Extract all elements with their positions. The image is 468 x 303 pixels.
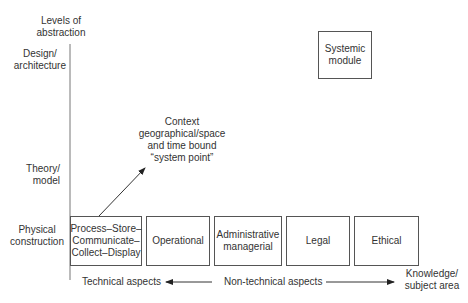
systemic-module-line2: module (325, 55, 366, 67)
context-arrow (99, 168, 145, 216)
level-design: Design/ architecture (14, 48, 66, 72)
systemic-module-line1: Systemic (325, 43, 366, 55)
systemic-module-box: Systemic module (318, 31, 372, 79)
box-process-line3: Collect–Display (70, 247, 141, 259)
level-theory-line2: model (26, 175, 60, 187)
box-administrative: Administrative managerial (214, 216, 282, 266)
context-line2: geographical/space (135, 128, 229, 140)
context-line3: and time bound (135, 140, 229, 152)
box-ethical: Ethical (354, 216, 419, 266)
box-operational-label: Operational (152, 235, 204, 247)
box-process-line1: Process–Store– (70, 223, 141, 235)
knowledge-label: Knowledge/ subject area (400, 268, 464, 292)
technical-aspects-label: Technical aspects (82, 276, 161, 288)
box-legal-label: Legal (306, 235, 330, 247)
box-process-store: Process–Store– Communicate– Collect–Disp… (70, 216, 142, 266)
knowledge-line2: subject area (400, 280, 464, 292)
level-theory: Theory/ model (26, 163, 60, 187)
level-physical-line2: construction (10, 236, 64, 248)
context-label: Context geographical/space and time boun… (135, 116, 229, 164)
y-axis-title-line1: Levels of (36, 15, 86, 27)
box-process-line2: Communicate– (70, 235, 141, 247)
box-legal: Legal (286, 216, 350, 266)
diagram-canvas: Levels of abstraction Design/ architectu… (0, 0, 468, 303)
y-axis-title: Levels of abstraction (36, 15, 86, 39)
level-physical-line1: Physical (10, 224, 64, 236)
level-design-line2: architecture (14, 60, 66, 72)
context-line1: Context (135, 116, 229, 128)
level-design-line1: Design/ (14, 48, 66, 60)
box-administrative-line1: Administrative (217, 229, 280, 241)
context-line4: “system point” (135, 152, 229, 164)
box-administrative-line2: managerial (217, 241, 280, 253)
non-technical-aspects-label: Non-technical aspects (224, 276, 322, 288)
knowledge-line1: Knowledge/ (400, 268, 464, 280)
box-ethical-label: Ethical (371, 235, 401, 247)
level-theory-line1: Theory/ (26, 163, 60, 175)
box-operational: Operational (146, 216, 210, 266)
level-physical: Physical construction (10, 224, 64, 248)
y-axis-title-line2: abstraction (36, 27, 86, 39)
